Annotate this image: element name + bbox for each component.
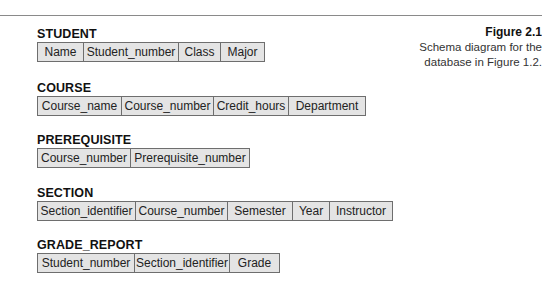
attribute-cell: Course_name	[38, 97, 122, 115]
attribute-cell: Major	[221, 43, 264, 61]
attribute-cell: Section_identifier	[38, 202, 136, 220]
attribute-cell: Prerequisite_number	[131, 149, 249, 167]
attribute-cell: Student_number	[38, 254, 135, 272]
attribute-cell: Course_number	[122, 97, 214, 115]
relation-name: PREREQUISITE	[37, 133, 250, 147]
attribute-cell: Department	[289, 97, 365, 115]
relation-grade-report: GRADE_REPORT Student_number Section_iden…	[37, 238, 280, 273]
attribute-row: Name Student_number Class Major	[37, 42, 265, 62]
attribute-cell: Grade	[230, 254, 279, 272]
attribute-cell: Student_number	[84, 43, 179, 61]
top-rule	[0, 15, 542, 16]
figure-label: Figure 2.1	[382, 25, 542, 40]
relation-section: SECTION Section_identifier Course_number…	[37, 186, 393, 221]
attribute-cell: Course_number	[136, 202, 228, 220]
attribute-cell: Credit_hours	[214, 97, 289, 115]
caption-line-1: Schema diagram for the	[382, 40, 542, 55]
attribute-cell: Instructor	[330, 202, 392, 220]
attribute-cell: Course_number	[38, 149, 131, 167]
attribute-cell: Section_identifier	[135, 254, 230, 272]
relation-prerequisite: PREREQUISITE Course_number Prerequisite_…	[37, 133, 250, 168]
relation-course: COURSE Course_name Course_number Credit_…	[37, 81, 366, 116]
attribute-row: Course_name Course_number Credit_hours D…	[37, 96, 366, 116]
relation-name: COURSE	[37, 81, 366, 95]
attribute-cell: Name	[38, 43, 84, 61]
relation-name: SECTION	[37, 186, 393, 200]
attribute-row: Section_identifier Course_number Semeste…	[37, 201, 393, 221]
attribute-cell: Year	[293, 202, 330, 220]
caption-line-2: database in Figure 1.2.	[382, 55, 542, 70]
relation-name: GRADE_REPORT	[37, 238, 280, 252]
figure-caption: Figure 2.1 Schema diagram for the databa…	[382, 25, 542, 70]
attribute-row: Course_number Prerequisite_number	[37, 148, 250, 168]
relation-student: STUDENT Name Student_number Class Major	[37, 27, 265, 62]
relation-name: STUDENT	[37, 27, 265, 41]
attribute-cell: Class	[179, 43, 221, 61]
attribute-row: Student_number Section_identifier Grade	[37, 253, 280, 273]
attribute-cell: Semester	[228, 202, 293, 220]
